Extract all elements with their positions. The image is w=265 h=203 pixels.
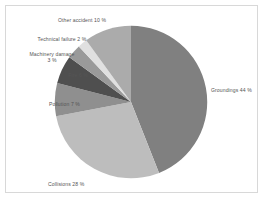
slice-label-machinery-damage: Machinery damage 3 % xyxy=(10,51,94,64)
slice-label-machinery-damage-value: 3 % xyxy=(47,57,56,63)
slice-label-fire: Fire 6 % xyxy=(10,72,88,78)
slice-label-pollution-text: Pollution 7 % xyxy=(49,101,80,107)
slice-label-other-accident: Other accident 10 % xyxy=(40,17,124,23)
pie-chart: Other accident 10 % Technical failure 2 … xyxy=(0,0,265,203)
slice-label-technical-failure: Technical failure 2 % xyxy=(20,36,104,42)
slice-label-pollution: Pollution 7 % xyxy=(8,101,80,107)
slice-label-groundings: Groundings 44 % xyxy=(211,87,265,93)
slice-label-technical-failure-text: Technical failure 2 % xyxy=(38,36,87,42)
slice-label-groundings-text: Groundings 44 % xyxy=(211,87,252,93)
slice-label-other-accident-text: Other accident 10 % xyxy=(58,17,106,23)
slice-label-fire-text: Fire 6 % xyxy=(68,72,88,78)
slice-label-collisions: Collisions 28 % xyxy=(48,181,128,187)
slice-label-collisions-text: Collisions 28 % xyxy=(48,181,84,187)
slice-label-machinery-damage-text: Machinery damage xyxy=(30,51,75,57)
